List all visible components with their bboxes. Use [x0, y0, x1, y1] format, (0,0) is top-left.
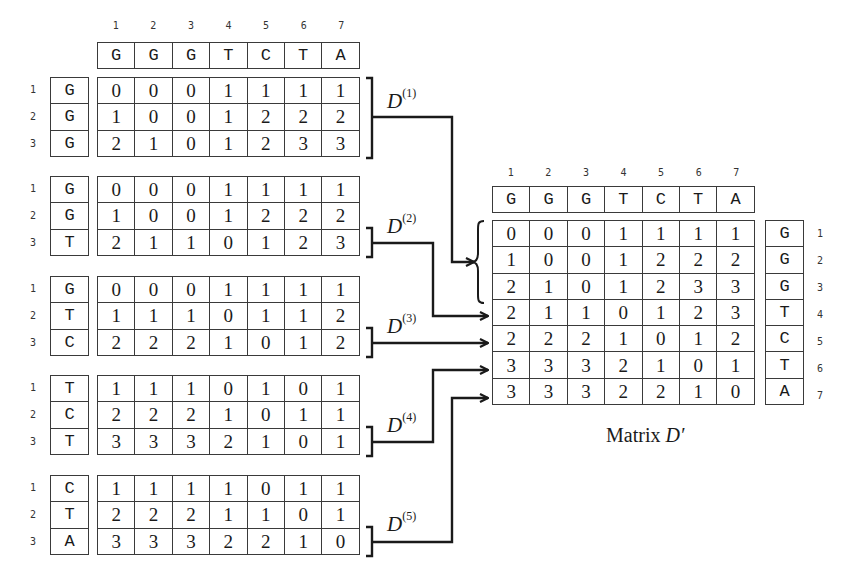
cell: 0: [530, 221, 567, 247]
cell: 1: [530, 299, 567, 325]
sequence-letter: T: [679, 187, 716, 213]
cell: 1: [642, 352, 679, 378]
cell: 2: [605, 378, 642, 404]
column-number: 7: [717, 167, 755, 178]
column-number: 4: [605, 167, 643, 178]
row-letter: T: [766, 299, 804, 325]
cell: 1: [567, 299, 604, 325]
cell: 3: [567, 352, 604, 378]
cell: 1: [493, 247, 530, 273]
cell: 3: [679, 273, 716, 299]
sequence-letter: G: [567, 187, 604, 213]
cell: 3: [493, 352, 530, 378]
result-column-numbers: 1 2 3 4 5 6 7: [492, 167, 755, 178]
cell: 3: [567, 378, 604, 404]
cell: 2: [642, 273, 679, 299]
sequence-letter: G: [530, 187, 567, 213]
cell: 2: [679, 299, 716, 325]
row-letter: T: [766, 352, 804, 378]
cell: 2: [493, 326, 530, 352]
row-number: 3: [813, 282, 827, 293]
cell: 1: [605, 326, 642, 352]
cell: 0: [642, 326, 679, 352]
cell: 3: [530, 352, 567, 378]
matrix-d-prime: 0001111 1001222 2101233 2110123 2221012 …: [492, 220, 755, 405]
column-number: 1: [492, 167, 530, 178]
cell: 2: [717, 326, 754, 352]
cell: 1: [679, 378, 716, 404]
cell: 1: [605, 273, 642, 299]
bracket-d3: [366, 328, 372, 357]
arrow-d1: [372, 117, 474, 262]
cell: 0: [605, 299, 642, 325]
sequence-letter: T: [605, 187, 642, 213]
sequence-letter: G: [493, 187, 530, 213]
cell: 3: [530, 378, 567, 404]
cell: 1: [717, 352, 754, 378]
cell: 2: [717, 247, 754, 273]
cell: 3: [717, 299, 754, 325]
cell: 0: [679, 352, 716, 378]
cell: 0: [530, 247, 567, 273]
column-number: 6: [680, 167, 718, 178]
bracket-d1: [366, 78, 372, 158]
cell: 1: [717, 221, 754, 247]
arrow-d5: [372, 398, 488, 542]
cell: 2: [493, 299, 530, 325]
row-letter: C: [766, 326, 804, 352]
row-number: 4: [813, 309, 827, 320]
bracket-d5: [366, 527, 372, 556]
row-number: 5: [813, 336, 827, 347]
bracket-d2: [366, 228, 372, 257]
result-row-letter-column: G G G T C T A: [765, 220, 804, 405]
cell: 0: [567, 247, 604, 273]
cell: 2: [530, 326, 567, 352]
row-number: 2: [813, 255, 827, 266]
column-number: 3: [567, 167, 605, 178]
cell: 2: [642, 247, 679, 273]
cell: 1: [530, 273, 567, 299]
sequence-letter: A: [717, 187, 754, 213]
result-sequence-row: G G G T C T A: [492, 186, 755, 213]
cell: 1: [679, 221, 716, 247]
result-caption: Matrix D′: [606, 424, 684, 447]
cell: 3: [493, 378, 530, 404]
row-number: 1: [813, 228, 827, 239]
cell: 1: [642, 299, 679, 325]
bracket-d4: [366, 427, 372, 456]
cell: 1: [605, 221, 642, 247]
row-number: 7: [813, 390, 827, 401]
column-number: 2: [530, 167, 568, 178]
cell: 1: [679, 326, 716, 352]
cell: 2: [567, 326, 604, 352]
cell: 0: [493, 221, 530, 247]
cell: 0: [567, 221, 604, 247]
row-letter: G: [766, 221, 804, 247]
cell: 2: [642, 378, 679, 404]
cell: 1: [642, 221, 679, 247]
sequence-letter: C: [642, 187, 679, 213]
row-number: 6: [813, 363, 827, 374]
cell: 2: [679, 247, 716, 273]
row-letter: G: [766, 247, 804, 273]
arrow-d2: [372, 243, 488, 316]
curly-brace: [472, 221, 484, 303]
cell: 0: [717, 378, 754, 404]
column-number: 5: [642, 167, 680, 178]
cell: 2: [493, 273, 530, 299]
cell: 0: [567, 273, 604, 299]
arrow-d4: [372, 370, 488, 442]
cell: 3: [717, 273, 754, 299]
row-letter: G: [766, 273, 804, 299]
row-letter: A: [766, 378, 804, 404]
cell: 2: [605, 352, 642, 378]
cell: 1: [605, 247, 642, 273]
